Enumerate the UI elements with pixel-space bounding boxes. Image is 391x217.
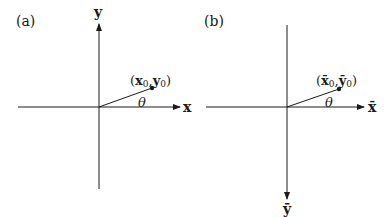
panel-a-axes	[18, 24, 180, 189]
panel-a-y-axis-label: y	[94, 5, 102, 19]
panel-a-point-label: (x0,y0)	[130, 74, 171, 89]
panel-b-x-axis-label: x̄	[368, 100, 376, 114]
panel-b-angle-label: θ	[325, 96, 333, 109]
panel-a-x-axis-label: x	[183, 100, 191, 114]
panel-a-angle-label: θ	[138, 96, 146, 109]
panel-a-label: (a)	[16, 14, 35, 28]
panel-b-label: (b)	[204, 14, 224, 28]
panel-b-y-axis-label: ȳ	[283, 202, 291, 216]
panel-b-point-label: (x̄0,ȳ0)	[316, 74, 357, 89]
panel-b-axes	[206, 25, 364, 199]
